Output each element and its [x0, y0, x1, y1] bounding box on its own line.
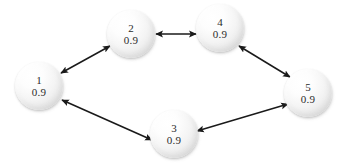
node-1-value-label: 0.9: [32, 86, 46, 99]
node-4[interactable]: 40.9: [196, 4, 244, 52]
node-5[interactable]: 50.9: [284, 69, 332, 117]
node-3-id-label: 3: [171, 122, 177, 134]
node-3[interactable]: 30.9: [150, 110, 198, 158]
edge-4-5: [239, 46, 290, 77]
node-1[interactable]: 10.9: [15, 62, 63, 110]
node-5-id-label: 5: [305, 81, 311, 93]
node-4-value-label: 0.9: [213, 28, 227, 41]
node-5-value-label: 0.9: [301, 93, 315, 106]
node-2[interactable]: 20.9: [107, 10, 155, 58]
edge-3-1: [62, 100, 152, 140]
node-1-id-label: 1: [36, 74, 42, 86]
node-4-id-label: 4: [217, 16, 223, 28]
graph-diagram: 10.920.930.940.950.9: [0, 0, 337, 165]
node-3-value-label: 0.9: [167, 134, 181, 147]
node-2-id-label: 2: [128, 22, 134, 34]
edge-1-2: [61, 46, 110, 73]
node-2-value-label: 0.9: [124, 34, 138, 47]
edge-5-3: [197, 104, 288, 131]
